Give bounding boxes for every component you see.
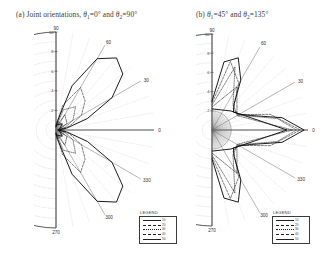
caption-b-theta2-value: =135°	[250, 10, 269, 19]
legend-entry: 50	[142, 237, 175, 241]
polar-axes-b: 1086429060300330300270	[196, 26, 316, 240]
legend-entry-label: 50	[295, 238, 298, 241]
legend-entry-label: 50	[162, 238, 165, 241]
caption-b-conjunction: and	[228, 10, 243, 19]
angular-tick-label: 90	[209, 28, 215, 33]
caption-b-prefix: (b)	[196, 10, 207, 19]
caption-panel-a: (a) Joint orientations, θ1=0° and θ2=90°	[16, 10, 137, 20]
angular-tick-label: 270	[52, 230, 60, 235]
radial-tick-label: 4	[51, 88, 54, 93]
legend-title-b: LEGEND	[273, 210, 291, 215]
caption-a-theta1-value: =0°	[90, 10, 101, 19]
legend-entry: 30	[275, 228, 308, 232]
legend-box-b: 1020304050	[272, 216, 310, 244]
legend-line-sample-dotted	[276, 229, 294, 230]
angular-tick-label: 300	[260, 213, 268, 218]
caption-a-conjunction: and	[101, 10, 116, 19]
angular-tick-label: 60	[106, 40, 112, 45]
angular-tick-label: 0	[312, 128, 315, 133]
radial-tick-label: 8	[207, 51, 210, 56]
legend-entry: 10	[142, 219, 175, 223]
legend-line-sample-solid	[143, 239, 161, 240]
caption-a-theta2-value: =90°	[122, 10, 137, 19]
legend-entry: 20	[275, 223, 308, 227]
angular-tick-label: 0	[158, 128, 161, 133]
legend-entry: 20	[142, 223, 175, 227]
polar-axes-a: 1086429060300330300270	[34, 26, 166, 240]
legend-line-sample-solid	[143, 220, 161, 221]
angular-tick-label: 330	[143, 178, 151, 183]
legend-title-a: LEGEND	[140, 210, 158, 215]
angular-tick-label: 30	[298, 79, 304, 84]
legend-line-sample-dashed	[276, 225, 294, 226]
legend-entry: 10	[275, 219, 308, 223]
legend-entry: 30	[142, 228, 175, 232]
legend-entry-label: 40	[295, 233, 298, 236]
polar-plot-b: 1086429060300330300270	[196, 26, 316, 240]
polar-grid	[34, 32, 154, 228]
legend-line-sample-dashdot	[276, 234, 294, 235]
radial-tick-label: 2	[207, 108, 210, 113]
angular-tick-label: 300	[105, 215, 113, 220]
legend-line-sample-solid	[276, 239, 294, 240]
legend-entry: 50	[275, 237, 308, 241]
legend-box-a: 1020304050	[139, 216, 177, 244]
legend-entry-label: 40	[162, 233, 165, 236]
angular-axis: 9060300330300270	[52, 26, 161, 235]
legend-entry: 40	[142, 232, 175, 236]
angular-tick-label: 330	[297, 177, 305, 182]
polar-figure: (a) Joint orientations, θ1=0° and θ2=90°…	[0, 0, 324, 276]
radial-tick-label: 4	[207, 89, 210, 94]
angular-tick-label: 30	[144, 78, 150, 83]
legend-line-sample-dashed	[143, 225, 161, 226]
angular-tick-label: 60	[261, 41, 267, 46]
caption-b-theta1-value: =45°	[213, 10, 228, 19]
legend-line-sample-solid	[276, 220, 294, 221]
polar-plot-a: 1086429060300330300270	[34, 26, 166, 240]
radial-tick-label: 2	[51, 108, 54, 113]
legend-entry: 40	[275, 232, 308, 236]
caption-a-prefix: (a) Joint orientations,	[16, 10, 83, 19]
angular-tick-label: 90	[53, 26, 59, 31]
caption-panel-b: (b) θ1=45° and θ2=135°	[196, 10, 268, 20]
legend-line-sample-dashdot	[143, 234, 161, 235]
angular-tick-label: 270	[208, 228, 216, 233]
legend-line-sample-dotted	[143, 229, 161, 230]
